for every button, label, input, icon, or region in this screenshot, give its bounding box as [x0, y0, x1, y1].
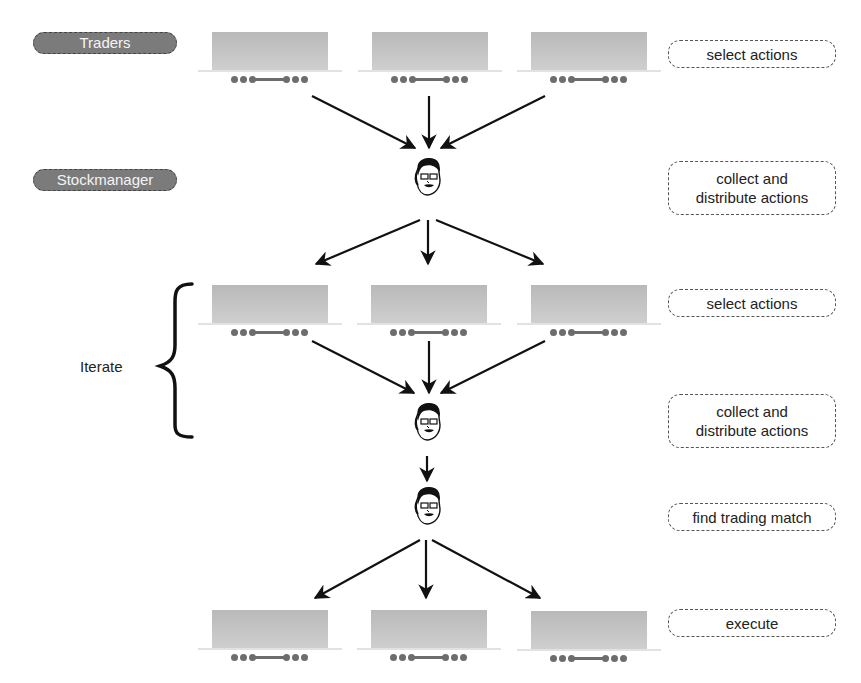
arrow-manager-to-trader	[432, 540, 540, 598]
stockmanager-face-icon	[412, 403, 442, 441]
arrow-trader-to-manager	[441, 341, 545, 393]
iterate-brace-icon	[160, 284, 192, 437]
arrow-manager-to-trader	[316, 220, 420, 264]
arrow-trader-to-manager	[312, 341, 414, 393]
flow-arrows	[0, 0, 861, 683]
arrow-manager-to-trader	[315, 540, 420, 598]
stockmanager-face-icon	[412, 158, 442, 196]
stockmanager-face-icon	[412, 487, 442, 525]
arrow-manager-to-trader	[436, 220, 543, 264]
arrow-trader-to-manager	[441, 96, 545, 148]
arrow-trader-to-manager	[312, 96, 415, 148]
